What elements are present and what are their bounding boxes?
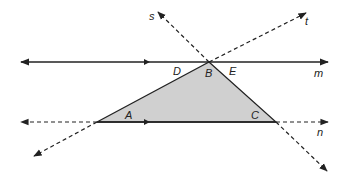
triangle-abc bbox=[97, 62, 276, 122]
label-e: E bbox=[229, 66, 236, 77]
parallel-mark-m bbox=[144, 59, 150, 65]
label-d: D bbox=[173, 66, 181, 77]
label-a: A bbox=[125, 110, 132, 121]
ray-t bbox=[209, 13, 306, 62]
label-c: C bbox=[251, 110, 259, 121]
ray-ab-extension bbox=[34, 122, 97, 156]
label-n: n bbox=[317, 127, 323, 138]
ray-s bbox=[158, 12, 209, 62]
geometry-diagram: s t m n D B E A C bbox=[0, 0, 342, 182]
label-b: B bbox=[205, 68, 212, 79]
label-s: s bbox=[149, 11, 155, 22]
diagram-svg bbox=[0, 0, 342, 182]
label-t: t bbox=[305, 16, 308, 27]
label-m: m bbox=[314, 68, 323, 79]
